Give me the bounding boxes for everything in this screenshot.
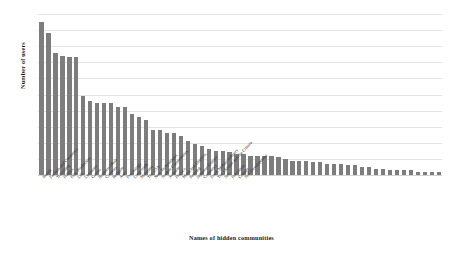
- bar-slot: [45, 14, 52, 175]
- bar-slot: [282, 14, 289, 175]
- bar: [53, 53, 57, 175]
- bar-slot: [359, 14, 366, 175]
- bar-slot: [143, 14, 150, 175]
- bar: [388, 170, 392, 175]
- bar: [416, 172, 420, 175]
- bar-slot: [247, 14, 254, 175]
- bar-slot: [198, 14, 205, 175]
- bar: [409, 170, 413, 175]
- bar-slot: [59, 14, 66, 175]
- bar-slot: [324, 14, 331, 175]
- bar: [123, 107, 127, 175]
- bar-slot: [156, 14, 163, 175]
- bar: [304, 161, 308, 175]
- bar-slot: [108, 14, 115, 175]
- bar: [423, 172, 427, 175]
- bar-slot: [80, 14, 87, 175]
- bar-slot: [87, 14, 94, 175]
- bar: [318, 162, 322, 175]
- bar: [297, 161, 301, 175]
- bar: [374, 169, 378, 175]
- bar: [332, 164, 336, 175]
- bar-slot: [400, 14, 407, 175]
- bar-slot: [129, 14, 136, 175]
- bar-slot: [115, 14, 122, 175]
- bar: [325, 164, 329, 175]
- x-axis-tick-labels: HealthFashion and CosmeticsTravellingPol…: [38, 176, 442, 232]
- bar: [46, 33, 50, 175]
- bar: [39, 22, 43, 175]
- bar: [311, 162, 315, 175]
- bar-slot: [170, 14, 177, 175]
- bar-slot: [310, 14, 317, 175]
- bar-slot: [289, 14, 296, 175]
- bar-slot: [366, 14, 373, 175]
- y-axis-title: Number of users: [19, 24, 26, 108]
- bar: [395, 170, 399, 175]
- x-axis-title: Names of hidden communities: [0, 234, 463, 241]
- bar-slot: [219, 14, 226, 175]
- bar: [360, 167, 364, 175]
- bar-slot: [101, 14, 108, 175]
- bar-slot: [379, 14, 386, 175]
- bar-slot: [275, 14, 282, 175]
- bar: [102, 103, 106, 175]
- bar-slot: [296, 14, 303, 175]
- bar-slot: [386, 14, 393, 175]
- bar-slot: [254, 14, 261, 175]
- bar: [74, 57, 78, 175]
- bar-slot: [268, 14, 275, 175]
- bar-slot: [338, 14, 345, 175]
- bar-slot: [345, 14, 352, 175]
- bar-slot: [122, 14, 129, 175]
- bar: [346, 165, 350, 175]
- bar-slot: [205, 14, 212, 175]
- bar-slot: [94, 14, 101, 175]
- bar-slot: [331, 14, 338, 175]
- bar: [437, 172, 441, 175]
- bar-slot: [150, 14, 157, 175]
- bar-slot: [373, 14, 380, 175]
- bar: [283, 159, 287, 175]
- bar-slot: [421, 14, 428, 175]
- bar: [402, 170, 406, 175]
- bar: [269, 156, 273, 175]
- bar-slot: [407, 14, 414, 175]
- bar-slot: [317, 14, 324, 175]
- bar: [339, 164, 343, 175]
- bar: [290, 161, 294, 175]
- bar-slot: [191, 14, 198, 175]
- bar-slot: [38, 14, 45, 175]
- bar: [88, 101, 92, 175]
- bar-slot: [261, 14, 268, 175]
- bar: [276, 157, 280, 175]
- bar-slot: [393, 14, 400, 175]
- bar-slot: [303, 14, 310, 175]
- bar-slot: [136, 14, 143, 175]
- bar-slot: [352, 14, 359, 175]
- bar-slot: [414, 14, 421, 175]
- bar-chart: Number of users 0102030405060708090100 H…: [0, 0, 463, 256]
- bar-slot: [428, 14, 435, 175]
- bar: [367, 167, 371, 175]
- bar: [353, 165, 357, 175]
- bar-slot: [435, 14, 442, 175]
- bar-slot: [212, 14, 219, 175]
- bar-slot: [52, 14, 59, 175]
- bar: [381, 169, 385, 175]
- bar-slot: [163, 14, 170, 175]
- bar: [430, 172, 434, 175]
